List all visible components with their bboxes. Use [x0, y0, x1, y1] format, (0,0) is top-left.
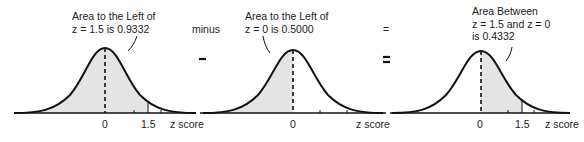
annotation-line: is 0.4332 — [472, 30, 550, 43]
axis-label: z score — [170, 118, 204, 130]
annotation-line: z = 0 is 0.5000 — [245, 23, 328, 36]
axis-label: z score — [545, 118, 579, 130]
panel-3-annotation: Area Between z = 1.5 and z = 0 is 0.4332 — [472, 5, 550, 43]
annotation-line: Area to the Left of — [72, 10, 155, 23]
tick-zero: 0 — [102, 118, 108, 130]
panel-1-annotation: Area to the Left of z = 1.5 is 0.9332 — [72, 10, 155, 35]
panel-3-curve — [390, 47, 570, 113]
panel-1-curve — [14, 36, 196, 113]
panel-2-annotation: Area to the Left of z = 0 is 0.5000 — [245, 10, 328, 35]
axis-label: z score — [356, 118, 390, 130]
annotation-line: Area Between — [472, 5, 550, 18]
equals-word: = — [383, 23, 389, 35]
tick-zero: 0 — [477, 118, 483, 130]
panel-2-curve — [200, 36, 386, 113]
annotation-line: Area to the Left of — [245, 10, 328, 23]
tick-z-value: 1.5 — [141, 118, 156, 130]
tick-z-value: 1.5 — [515, 118, 530, 130]
tick-zero: 0 — [290, 118, 296, 130]
minus-word: minus — [192, 23, 220, 35]
annotation-line: z = 1.5 and z = 0 — [472, 18, 550, 31]
annotation-line: z = 1.5 is 0.9332 — [72, 23, 155, 36]
